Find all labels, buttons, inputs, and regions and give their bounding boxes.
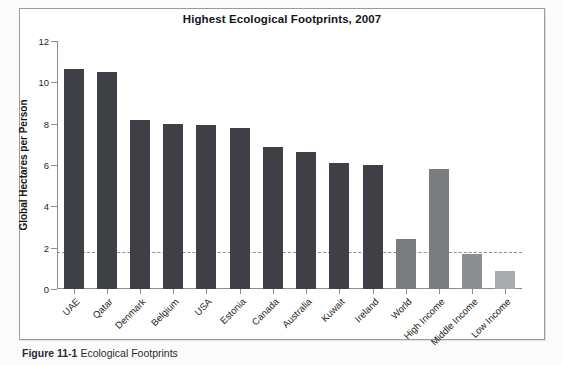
bar-group: Kuwait <box>323 41 356 289</box>
x-tick <box>240 289 241 294</box>
y-tick-label: 2 <box>44 242 49 253</box>
bar-group: Low Income <box>489 41 522 289</box>
bar <box>429 169 449 289</box>
bar-group: Ireland <box>356 41 389 289</box>
x-tick-label: Australia <box>280 296 314 330</box>
x-tick-label: Estonia <box>217 296 247 326</box>
bar-group: Estonia <box>223 41 256 289</box>
bar <box>363 165 383 289</box>
x-tick <box>74 289 75 294</box>
bar <box>495 271 515 289</box>
x-tick <box>140 289 141 294</box>
x-tick <box>439 289 440 294</box>
bar-group: UAE <box>57 41 90 289</box>
figure-caption-text: Ecological Footprints <box>80 347 177 359</box>
x-tick <box>472 289 473 294</box>
bar-group: Denmark <box>123 41 156 289</box>
x-tick <box>406 289 407 294</box>
x-tick-label: Canada <box>249 296 280 327</box>
x-tick-label: Ireland <box>352 296 380 324</box>
bar <box>163 124 183 289</box>
x-tick-label: Belgium <box>149 296 181 328</box>
x-tick <box>339 289 340 294</box>
x-tick-label: UAE <box>60 296 82 318</box>
bar-group: Australia <box>290 41 323 289</box>
x-tick <box>273 289 274 294</box>
y-axis-title: Global Hectares per Person <box>18 99 29 230</box>
x-tick <box>306 289 307 294</box>
bar <box>196 125 216 289</box>
x-tick-label: USA <box>193 296 215 318</box>
figure-caption-label: Figure 11-1 <box>22 347 77 359</box>
y-tick-label: 10 <box>38 77 49 88</box>
bar <box>130 120 150 289</box>
x-tick <box>107 289 108 294</box>
x-tick <box>505 289 506 294</box>
x-tick-label: Kuwait <box>319 296 347 324</box>
y-tick-label: 4 <box>44 201 49 212</box>
bar <box>329 163 349 289</box>
bar-group: Canada <box>256 41 289 289</box>
bar-group: Middle Income <box>456 41 489 289</box>
x-tick-label: Qatar <box>90 296 115 321</box>
bar-group: World <box>389 41 422 289</box>
x-tick <box>206 289 207 294</box>
x-tick-label: Denmark <box>113 296 148 331</box>
bar-series: UAEQatarDenmarkBelgiumUSAEstoniaCanadaAu… <box>57 41 522 289</box>
figure-caption: Figure 11-1 Ecological Footprints <box>22 347 178 363</box>
bar <box>396 239 416 289</box>
x-tick <box>173 289 174 294</box>
bar-group: USA <box>190 41 223 289</box>
chart-frame: Highest Ecological Footprints, 2007 Glob… <box>19 8 545 340</box>
plot-area: Global Hectares per Person 024681012 UAE… <box>57 41 522 289</box>
chart-title: Highest Ecological Footprints, 2007 <box>20 13 544 25</box>
y-tick-label: 6 <box>44 160 49 171</box>
x-tick-label: World <box>388 296 413 321</box>
bar <box>97 72 117 289</box>
bar <box>64 69 84 289</box>
bar <box>462 254 482 289</box>
y-tick-label: 8 <box>44 118 49 129</box>
y-tick-label: 0 <box>44 284 49 295</box>
bar <box>263 147 283 289</box>
bar-group: Qatar <box>90 41 123 289</box>
y-tick <box>51 289 57 290</box>
bar-group: Belgium <box>157 41 190 289</box>
bar <box>230 128 250 289</box>
x-tick <box>373 289 374 294</box>
bar-group: High Income <box>422 41 455 289</box>
figure-screenshot: Highest Ecological Footprints, 2007 Glob… <box>0 0 562 365</box>
bar <box>296 152 316 289</box>
y-tick-label: 12 <box>38 36 49 47</box>
